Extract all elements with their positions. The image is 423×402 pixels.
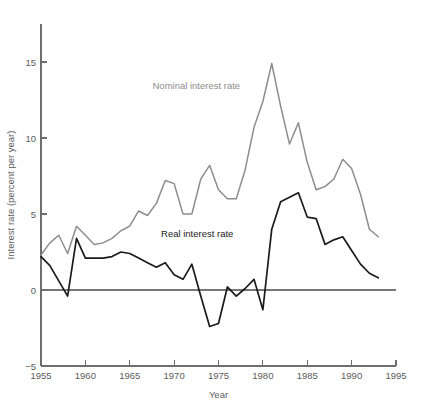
x-tick-label: 1975	[208, 370, 229, 381]
x-tick-label: 1955	[30, 370, 51, 381]
y-axis-title: Interest rate (percent per year)	[5, 131, 16, 260]
real-rate-line	[41, 193, 378, 327]
nominal-rate-line	[41, 64, 378, 256]
chart-canvas: −5051015 1955196019651970197519801985199…	[0, 0, 423, 402]
real-rate-label: Real interest rate	[161, 228, 233, 239]
x-tick-label: 1980	[252, 370, 273, 381]
x-tick-label: 1970	[164, 370, 185, 381]
chart-axes	[41, 24, 396, 366]
x-axis-ticks: 195519601965197019751980198519901995	[30, 360, 406, 381]
nominal-rate-label: Nominal interest rate	[152, 80, 240, 91]
x-tick-label: 1960	[75, 370, 96, 381]
chart-series-labels: Nominal interest rateReal interest rate	[152, 80, 240, 238]
y-tick-label: 15	[25, 57, 36, 68]
x-tick-label: 1995	[385, 370, 406, 381]
interest-rate-chart-figure: −5051015 1955196019651970197519801985199…	[0, 0, 423, 402]
y-tick-label: 10	[25, 133, 36, 144]
y-axis-ticks: −5051015	[25, 57, 47, 372]
y-tick-label: 5	[31, 209, 36, 220]
x-tick-label: 1965	[119, 370, 140, 381]
y-tick-label: 0	[31, 285, 36, 296]
x-tick-label: 1985	[297, 370, 318, 381]
x-axis-title: Year	[209, 389, 228, 400]
chart-series-lines	[41, 64, 378, 327]
x-tick-label: 1990	[341, 370, 362, 381]
